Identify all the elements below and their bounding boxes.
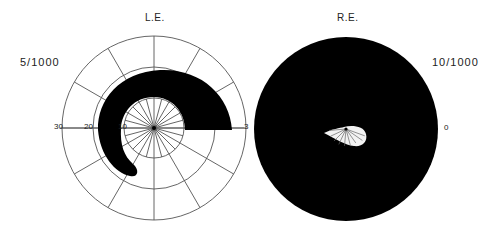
visual-field-diagram: 30 20 10 3 0 xyxy=(0,0,498,232)
left-ring-label-20: 20 xyxy=(84,122,93,131)
left-ring-label-10: 10 xyxy=(118,122,127,131)
meridian-60 xyxy=(154,128,200,208)
left-right-meridian-label: 3 xyxy=(244,122,249,131)
right-right-meridian-label: 0 xyxy=(444,123,449,132)
left-ring-label-30: 30 xyxy=(54,122,63,131)
right-fixation-point xyxy=(344,127,347,130)
meridian-30 xyxy=(154,128,234,174)
left-fixation-point xyxy=(152,126,156,130)
